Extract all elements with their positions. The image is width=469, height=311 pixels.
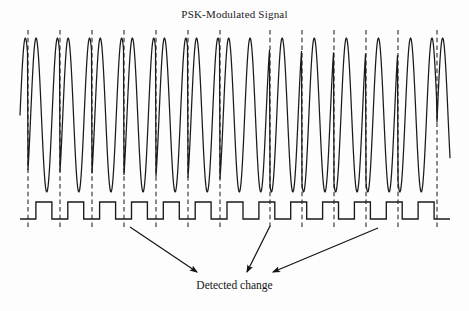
carrier-trace xyxy=(20,38,450,192)
arrow-2 xyxy=(247,226,270,272)
detected-change-caption: Detected change xyxy=(0,279,469,291)
detected-change-arrows xyxy=(130,226,378,272)
psk-plot-canvas xyxy=(0,0,469,311)
psk-figure: PSK-Modulated Signal Detected change xyxy=(0,0,469,311)
digital-trace xyxy=(20,202,450,219)
arrow-1 xyxy=(130,227,197,272)
arrow-3 xyxy=(273,228,378,272)
psk-carrier-waveform xyxy=(20,38,450,192)
digital-baseband-waveform xyxy=(20,202,450,219)
